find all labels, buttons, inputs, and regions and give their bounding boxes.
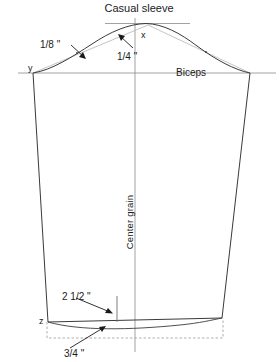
- point-y-label: y: [28, 63, 33, 73]
- left-side-seam: [33, 73, 48, 322]
- cap-point-marker-left: [76, 52, 78, 54]
- hem-curve-drop-label: 3/4 ": [64, 348, 85, 359]
- cap-left-offset-label: 1/8 ": [40, 39, 61, 50]
- cap-chord-right: [148, 25, 250, 73]
- pattern-drawing: Casual sleeve 1/8 " 1/4 " Biceps x y z 2…: [0, 0, 279, 362]
- center-grain-label: Center grain: [124, 195, 135, 250]
- biceps-label: Biceps: [176, 67, 206, 78]
- cap-point-marker-right: [205, 51, 207, 53]
- hem-depth-label: 2 1/2 ": [62, 291, 91, 302]
- sleeve-pattern-diagram: Casual sleeve 1/8 " 1/4 " Biceps x y z 2…: [0, 0, 279, 362]
- diagram-title: Casual sleeve: [104, 2, 173, 14]
- cap-right-offset-label: 1/4 ": [117, 51, 138, 62]
- right-side-seam: [222, 73, 250, 318]
- point-x-label: x: [141, 30, 146, 40]
- point-z-label: z: [39, 316, 44, 326]
- hem-curve-drop-leader: [70, 328, 103, 348]
